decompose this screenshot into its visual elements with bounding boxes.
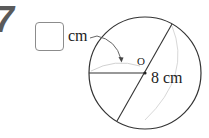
given-length-label: 8 cm [151,69,183,87]
center-label-o: O [137,56,145,67]
leader-line [90,36,97,38]
faint-construction-arc-left [91,63,140,71]
center-point [143,71,146,74]
arrowhead-icon [119,57,124,63]
